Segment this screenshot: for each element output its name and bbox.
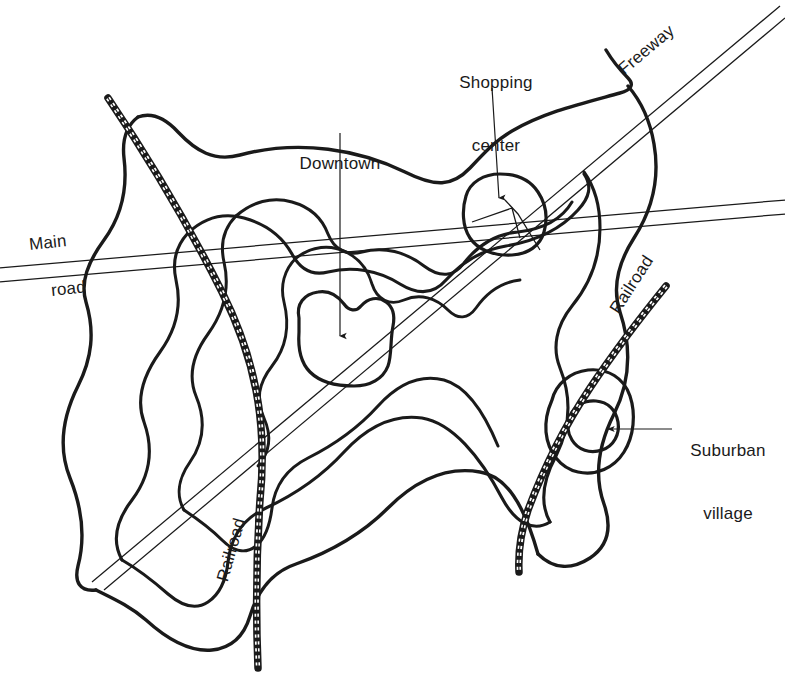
label-downtown-line1: Downtown (280, 153, 400, 174)
label-shopping-center: Shopping center (444, 30, 548, 198)
label-suburban-village-line1: Suburban (676, 440, 780, 461)
railroad-northwest (108, 98, 262, 668)
contour-map-svg (0, 0, 785, 700)
label-main-road-line1: Main (28, 230, 68, 255)
freeway-interchange (472, 200, 540, 250)
label-shopping-center-line2: center (444, 135, 548, 156)
label-shopping-center-line1: Shopping (444, 72, 548, 93)
label-suburban-village: Suburban village (676, 398, 780, 566)
diagram-canvas: Shopping center Downtown Suburban villag… (0, 0, 785, 700)
label-main-road-line2: road (50, 276, 87, 301)
downtown-peak-contour (298, 292, 393, 386)
label-downtown: Downtown (280, 111, 400, 216)
label-suburban-village-line2: village (676, 503, 780, 524)
